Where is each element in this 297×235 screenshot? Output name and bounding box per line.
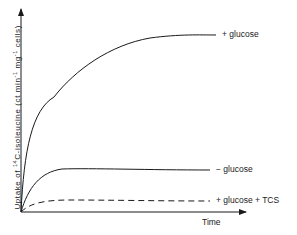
y-axis-label: Uptake of 14C-isoleucine (ct min-1 mg-1 … xyxy=(12,12,23,222)
legend-plus-glucose: + glucose xyxy=(222,29,259,39)
legend-minus-glucose: − glucose xyxy=(216,164,253,174)
series-glucose-tcs-line xyxy=(21,200,210,212)
x-axis-label: Time xyxy=(202,217,221,227)
series-minus-glucose-line xyxy=(21,169,210,212)
legend-glucose-tcs: + glucose + TCS xyxy=(216,195,279,205)
series-plus-glucose-line xyxy=(21,35,216,212)
